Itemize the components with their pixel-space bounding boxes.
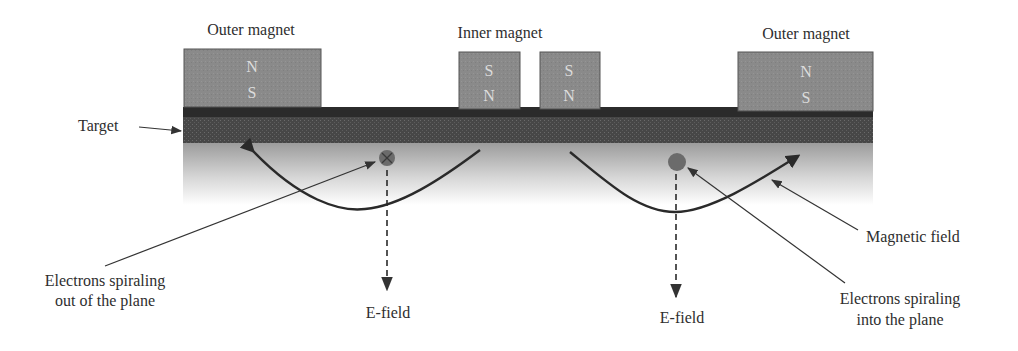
pole-label: S: [248, 84, 257, 101]
pole-label: N: [800, 63, 812, 80]
electrons-out-label-line1: Electrons spiraling: [45, 272, 165, 290]
electrons-in-label-line2: into the plane: [856, 311, 943, 329]
e-field-left-label: E-field: [366, 304, 410, 321]
outer-magnet-left: N S: [184, 49, 321, 107]
outer-magnet-right-label: Outer magnet: [762, 25, 850, 43]
pole-label: N: [563, 87, 575, 104]
magnetron-diagram: N S S N S N N S Outer magnet Inner magne…: [0, 0, 1018, 351]
target-label: Target: [78, 117, 119, 135]
outer-magnet-left-label: Outer magnet: [207, 21, 295, 39]
outer-magnet-right: N S: [738, 52, 873, 111]
magnetic-field-label: Magnetic field: [866, 228, 960, 246]
e-field-right-label: E-field: [660, 309, 704, 326]
pole-label: N: [483, 87, 495, 104]
electron-out-of-plane-icon: [379, 150, 395, 166]
pole-label: S: [565, 62, 574, 79]
target-arrow-icon: [139, 127, 181, 131]
inner-magnet-right: S N: [540, 52, 600, 109]
pole-label: S: [485, 62, 494, 79]
electrons-out-label-line2: out of the plane: [55, 292, 155, 310]
electron-into-plane-icon: [668, 153, 686, 171]
pole-label: S: [802, 89, 811, 106]
inner-magnet-left: S N: [459, 52, 520, 109]
pole-label: N: [246, 58, 258, 75]
inner-magnet-label: Inner magnet: [458, 24, 543, 42]
electrons-in-label-line1: Electrons spiraling: [840, 290, 960, 308]
